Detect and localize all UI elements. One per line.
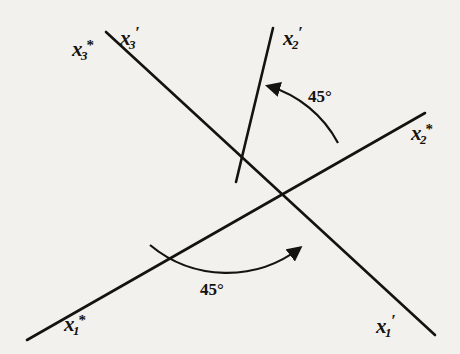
prime-icon: ′ [135, 23, 140, 42]
star-icon: * [426, 121, 434, 137]
star-icon: * [87, 37, 95, 53]
lower-angle-arc [150, 245, 300, 273]
axis-label-x3-star: x3* [72, 38, 94, 62]
line-x1star-to-x2star [27, 113, 425, 340]
figure-vector-canvas [0, 0, 460, 354]
axis-label-x3-prime: x3′ [120, 24, 140, 51]
star-icon: * [79, 312, 87, 328]
axis-label-x2-prime: x2′ [283, 24, 303, 51]
axis-label-x1-star: x1* [64, 313, 86, 337]
axis-lines [27, 28, 435, 340]
prime-icon: ′ [391, 311, 396, 330]
upper-angle-label: 45° [308, 88, 332, 105]
line-x2prime [236, 28, 273, 182]
axis-label-x2-star: x2* [411, 122, 433, 146]
line-x3-to-x1prime [106, 32, 435, 335]
axis-label-x1-prime: x1′ [376, 312, 396, 339]
axis-rotation-figure: x3* x3′ x2′ x2* x1* x1′ 45° 45° [0, 0, 460, 354]
prime-icon: ′ [298, 23, 303, 42]
lower-angle-label: 45° [200, 281, 224, 298]
